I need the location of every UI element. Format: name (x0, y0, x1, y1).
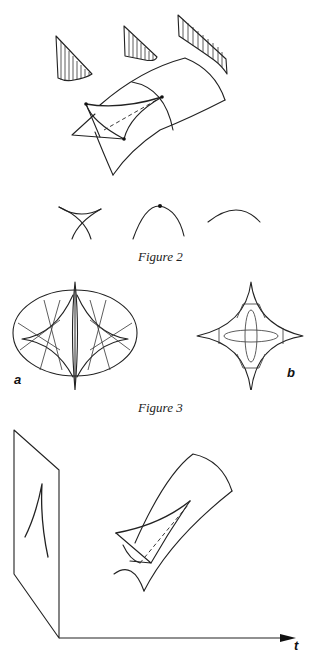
figure-2-caption: Figure 2 (138, 249, 183, 265)
figure-3b-label: b (287, 365, 295, 380)
figure-2-curves (0, 190, 313, 250)
top-surface-figure (0, 0, 313, 185)
bottom-3d-figure (0, 417, 313, 657)
hatched-profile-3 (178, 15, 227, 74)
figure-3a-ellipse-diagram (13, 282, 137, 390)
projection-plane (14, 430, 59, 638)
figure-3a-label: a (14, 372, 21, 387)
hatched-profile-2 (124, 26, 157, 61)
hatched-profile-1 (56, 36, 92, 81)
arc-with-point (133, 204, 184, 239)
figure-3-caption: Figure 3 (138, 400, 183, 416)
surface-with-swallowtail (114, 454, 232, 591)
crossing-curves (59, 207, 101, 239)
smooth-arc (208, 210, 260, 222)
t-axis-label: t (294, 638, 298, 653)
curved-surface (72, 58, 225, 175)
figure-3-diagrams (0, 270, 313, 390)
t-axis (59, 634, 296, 642)
